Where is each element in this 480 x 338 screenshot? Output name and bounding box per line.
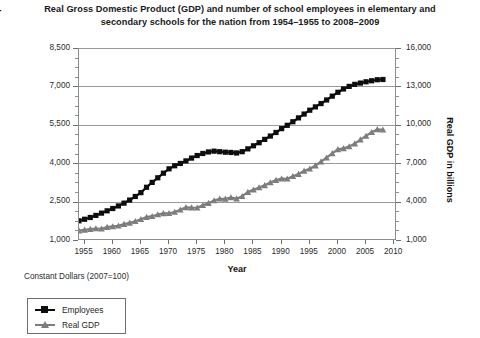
legend-marker-triangle-icon — [35, 319, 55, 330]
data-point — [341, 86, 346, 91]
y-tick-left-minor — [75, 58, 78, 59]
data-point — [234, 150, 239, 155]
x-tick — [281, 240, 282, 244]
x-tick — [393, 240, 394, 244]
y-axis-right-tick-label: 7,000 — [406, 158, 427, 167]
data-point — [155, 175, 160, 180]
y-tick-left-minor — [75, 144, 78, 145]
data-point — [335, 90, 340, 95]
data-point — [116, 203, 121, 208]
data-point — [121, 201, 126, 206]
data-point — [144, 185, 149, 190]
x-tick — [365, 240, 366, 244]
y-axis-right-tick-label: 10,000 — [406, 119, 431, 128]
chart-page: Real Gross Domestic Product (GDP) and nu… — [0, 0, 480, 338]
data-point — [183, 158, 188, 163]
data-point — [352, 82, 357, 87]
data-point — [178, 161, 183, 166]
y-tick-left — [73, 86, 78, 87]
y-tick-left-minor — [75, 182, 78, 183]
data-point — [363, 79, 368, 84]
plot-area — [78, 48, 396, 240]
legend-item-employees[interactable]: Employees — [35, 303, 103, 316]
data-point — [166, 166, 171, 171]
plot-series-svg — [79, 48, 397, 240]
data-point — [257, 140, 262, 145]
legend-marker-square-icon — [35, 304, 55, 315]
data-point — [195, 153, 200, 158]
y-tick-right-minor — [396, 134, 399, 135]
data-point — [313, 104, 318, 109]
data-point — [79, 218, 82, 223]
data-point — [290, 119, 295, 124]
y-axis-left-tick-label: 7,000 — [4, 81, 70, 90]
data-point — [369, 78, 374, 83]
y-tick-right-minor — [396, 96, 399, 97]
data-point — [110, 206, 115, 211]
legend-item-real-gdp[interactable]: Real GDP — [35, 318, 100, 331]
x-tick — [84, 240, 85, 244]
y-tick-right-minor — [396, 115, 399, 116]
y-tick-right — [396, 202, 401, 203]
y-tick-left-minor — [75, 192, 78, 193]
y-tick-left-minor — [75, 77, 78, 78]
data-point — [206, 149, 211, 154]
data-point — [251, 143, 256, 148]
data-point — [375, 77, 380, 82]
y-tick-right-minor — [396, 192, 399, 193]
data-point — [200, 151, 205, 156]
data-point — [324, 97, 329, 102]
y-tick-right — [396, 125, 401, 126]
y-tick-right — [396, 86, 401, 87]
y-tick-right-minor — [396, 67, 399, 68]
data-point — [217, 149, 222, 154]
y-axis-left-tick-label: 8,500 — [4, 43, 70, 52]
y-tick-right-minor — [396, 211, 399, 212]
y-tick-left-minor — [75, 221, 78, 222]
data-point — [358, 80, 363, 85]
data-point — [93, 213, 98, 218]
y-tick-right-minor — [396, 221, 399, 222]
y-tick-right — [396, 240, 401, 241]
chart-legend: Employees Real GDP — [27, 298, 126, 334]
data-point — [268, 133, 273, 138]
data-point — [279, 126, 284, 131]
y-tick-left — [73, 48, 78, 49]
y-axis-left-tick-label: 5,500 — [4, 119, 70, 128]
x-tick — [140, 240, 141, 244]
y-tick-left — [73, 240, 78, 241]
y-axis-left-tick-label: 1,000 — [4, 235, 70, 244]
x-tick — [309, 240, 310, 244]
y-axis-right-tick-label: 16,000 — [406, 43, 431, 52]
y-tick-left — [73, 202, 78, 203]
y-tick-left-minor — [75, 96, 78, 97]
data-point — [330, 94, 335, 99]
data-point — [262, 137, 267, 142]
data-point — [245, 146, 250, 151]
y-tick-left-minor — [75, 106, 78, 107]
data-point — [380, 77, 385, 82]
y-axis-left-tick-label: 2,500 — [4, 196, 70, 205]
x-tick — [168, 240, 169, 244]
y-tick-right-minor — [396, 182, 399, 183]
series-real-gdp — [79, 126, 386, 233]
y-axis-left-title: Number of employees in thousands — [0, 0, 1, 86]
y-axis-right-title: Real GDP in billions — [445, 80, 455, 240]
y-tick-left-minor — [75, 211, 78, 212]
data-point — [133, 194, 138, 199]
legend-label: Real GDP — [62, 320, 100, 330]
data-point — [99, 211, 104, 216]
data-point — [296, 115, 301, 120]
data-point — [150, 180, 155, 185]
y-tick-right-minor — [396, 106, 399, 107]
y-tick-right-minor — [396, 230, 399, 231]
y-tick-left-minor — [75, 154, 78, 155]
y-tick-right-minor — [396, 173, 399, 174]
y-tick-left-minor — [75, 173, 78, 174]
y-tick-left-minor — [75, 67, 78, 68]
data-point — [189, 155, 194, 160]
x-tick — [196, 240, 197, 244]
data-point — [172, 163, 177, 168]
legend-label: Employees — [62, 305, 103, 315]
y-axis-left-tick-label: 4,000 — [4, 158, 70, 167]
